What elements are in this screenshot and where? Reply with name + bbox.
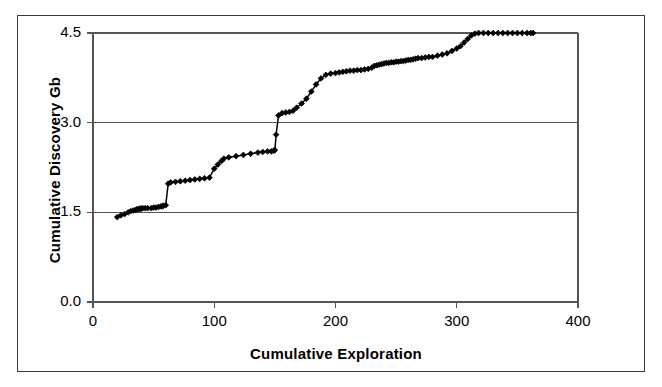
data-point-marker <box>255 150 261 156</box>
data-point-marker <box>177 178 183 184</box>
x-tick-label-200: 200 <box>312 312 360 329</box>
series-line-0 <box>117 33 533 217</box>
data-point-marker <box>202 175 208 181</box>
data-point-marker <box>233 153 239 159</box>
data-point-marker <box>226 154 232 160</box>
data-point-marker <box>173 179 179 185</box>
data-point-marker <box>434 53 440 59</box>
x-tick-label-400: 400 <box>554 312 602 329</box>
x-tick-label-100: 100 <box>190 312 238 329</box>
data-point-marker <box>260 149 266 155</box>
data-point-marker <box>197 176 203 182</box>
y-axis-title: Cumulative Discovery Gb <box>46 40 63 300</box>
figure-container: 0.01.53.04.50100200300400 Cumulative Dis… <box>0 0 662 387</box>
data-point-marker <box>240 152 246 158</box>
x-axis-title: Cumulative Exploration <box>93 345 579 362</box>
x-tick-label-0: 0 <box>69 312 117 329</box>
data-point-marker <box>430 54 436 60</box>
data-series-group <box>114 30 536 220</box>
data-point-marker <box>248 151 254 157</box>
x-tick-label-300: 300 <box>433 312 481 329</box>
data-point-marker <box>273 132 279 138</box>
data-point-marker <box>182 178 188 184</box>
data-point-marker <box>192 177 198 183</box>
data-point-marker <box>207 175 213 181</box>
y-tick-label-4-5: 4.5 <box>37 23 81 40</box>
data-point-marker <box>328 71 334 77</box>
data-point-marker <box>439 52 445 58</box>
data-point-marker <box>187 177 193 183</box>
